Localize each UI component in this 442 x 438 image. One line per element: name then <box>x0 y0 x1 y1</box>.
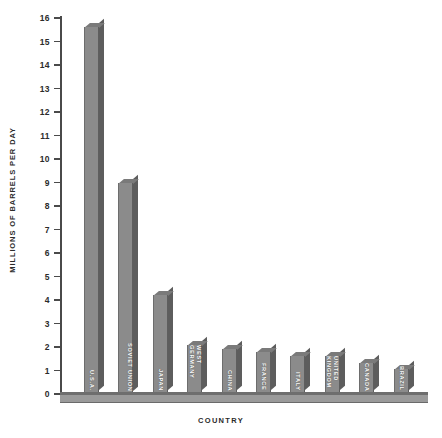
y-axis-tick-label: 9 <box>24 178 50 188</box>
bar: WEST GERMANY <box>187 345 202 394</box>
y-axis-tick-label: 1 <box>24 366 50 376</box>
y-axis-tick <box>54 346 62 348</box>
y-axis-tick <box>54 276 62 278</box>
y-axis-tick-label: 16 <box>24 13 50 23</box>
y-axis-tick-label: 3 <box>24 319 50 329</box>
y-axis-tick <box>54 205 62 207</box>
bar-category-label: UNITED KINGDOM <box>325 356 339 391</box>
bar: FRANCE <box>256 352 271 394</box>
y-axis-tick-label: 6 <box>24 248 50 258</box>
plot-area: 161514131211109876543210 U.S.A.SOVIET UN… <box>0 0 442 438</box>
bar-category-label: CHINA <box>226 370 233 391</box>
bar-category-label: FRANCE <box>260 363 267 391</box>
y-axis-tick-label: 5 <box>24 272 50 282</box>
bar-category-label: SOVIET UNION <box>119 343 133 392</box>
y-axis-tick <box>54 299 62 301</box>
bar-category-label: CANADA <box>363 363 370 391</box>
y-axis-tick <box>54 158 62 160</box>
bar: UNITED KINGDOM <box>325 356 340 394</box>
y-axis-tick-label: 7 <box>24 225 50 235</box>
y-axis-tick-label: 0 <box>24 389 50 399</box>
bar: SOVIET UNION <box>118 183 133 395</box>
bar: CHINA <box>222 349 237 394</box>
bar: CANADA <box>359 363 374 394</box>
bar-category-label: WEST GERMANY <box>188 345 202 391</box>
y-axis-tick-label: 4 <box>24 295 50 305</box>
bar: BRAZIL <box>394 369 409 394</box>
y-axis-tick-label: 2 <box>24 342 50 352</box>
y-axis-tick <box>54 252 62 254</box>
bar-chart: MILLIONS OF BARRELS PER DAY 161514131211… <box>0 0 442 438</box>
y-axis-tick-label: 13 <box>24 84 50 94</box>
y-axis-tick <box>54 41 62 43</box>
y-axis-tick <box>54 323 62 325</box>
bar: JAPAN <box>153 295 168 394</box>
bar-category-label: JAPAN <box>157 369 164 391</box>
bar: ITALY <box>290 356 305 394</box>
baseline-slab-front <box>60 395 428 403</box>
bar-side-face <box>168 287 173 390</box>
y-axis-tick <box>54 135 62 137</box>
bar-category-label: BRAZIL <box>398 366 405 391</box>
y-axis-tick <box>54 64 62 66</box>
y-axis-tick <box>54 182 62 184</box>
y-axis-tick-label: 14 <box>24 60 50 70</box>
bar-category-label: U.S.A. <box>88 370 95 391</box>
y-axis-tick-label: 8 <box>24 201 50 211</box>
y-axis-tick <box>54 17 62 19</box>
y-axis-tick-label: 11 <box>24 131 50 141</box>
y-axis-tick-label: 12 <box>24 107 50 117</box>
y-axis-tick <box>54 111 62 113</box>
bar-category-label: ITALY <box>294 372 301 391</box>
bar: U.S.A. <box>84 27 99 394</box>
bar-front-face <box>84 27 99 394</box>
bar-side-face <box>99 19 104 390</box>
y-axis-tick <box>54 370 62 372</box>
y-axis-tick <box>54 88 62 90</box>
y-axis-tick <box>54 229 62 231</box>
y-axis-tick-label: 10 <box>24 154 50 164</box>
y-axis-tick-label: 15 <box>24 37 50 47</box>
x-axis-title: COUNTRY <box>0 416 442 425</box>
bar-side-face <box>133 174 138 390</box>
